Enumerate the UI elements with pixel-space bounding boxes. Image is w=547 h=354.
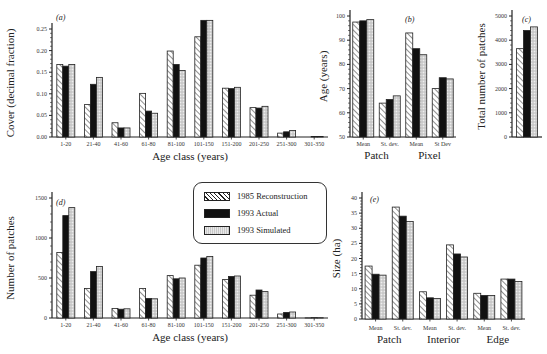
y-axis-label: Size (ha) bbox=[330, 238, 343, 278]
y-tick-label: 4000 bbox=[495, 37, 507, 43]
y-tick-label: 40 bbox=[351, 195, 357, 201]
bar bbox=[461, 257, 468, 319]
bar bbox=[399, 216, 406, 319]
panel-label: (e) bbox=[370, 195, 379, 204]
bar bbox=[262, 106, 268, 137]
x-tick-label: Mean bbox=[423, 325, 437, 331]
group-label: Edge bbox=[487, 333, 510, 345]
x-tick-label: 151-200 bbox=[221, 322, 241, 328]
solid-swatch-icon bbox=[204, 209, 230, 218]
x-tick-label: 151-200 bbox=[221, 141, 241, 147]
bar bbox=[146, 298, 152, 318]
bar bbox=[179, 278, 185, 318]
y-tick-label: 1000 bbox=[35, 235, 47, 241]
bar bbox=[406, 222, 413, 319]
bar bbox=[284, 312, 290, 318]
bar bbox=[432, 89, 439, 137]
bar bbox=[419, 292, 426, 319]
panel-label: (d) bbox=[56, 198, 66, 207]
stipple-swatch-icon bbox=[204, 226, 230, 235]
bar bbox=[406, 33, 413, 137]
y-axis-label: Cover (decimal fraction) bbox=[4, 28, 17, 137]
y-tick-label: 0.10 bbox=[37, 91, 48, 97]
y-tick-label: 500 bbox=[38, 275, 47, 281]
bar bbox=[446, 79, 453, 137]
bar bbox=[146, 111, 152, 137]
bar bbox=[222, 280, 228, 318]
bar bbox=[392, 207, 399, 319]
x-tick-label: St Dev bbox=[435, 141, 452, 147]
bar bbox=[439, 78, 446, 137]
bar bbox=[112, 308, 118, 318]
x-tick-label: 1-20 bbox=[60, 322, 71, 328]
x-tick-label: St. dev. bbox=[448, 325, 466, 331]
y-tick-label: 60 bbox=[339, 110, 345, 116]
legend-item-1993-simulated: 1993 Simulated bbox=[204, 225, 291, 235]
x-tick-label: 21-40 bbox=[86, 322, 100, 328]
bar bbox=[426, 298, 433, 319]
bar bbox=[173, 279, 179, 318]
y-axis-label: Number of patches bbox=[4, 216, 16, 300]
x-tick-label: 1-20 bbox=[60, 141, 71, 147]
bar bbox=[508, 279, 515, 319]
y-tick-label: 90 bbox=[339, 37, 345, 43]
bar bbox=[517, 49, 524, 137]
legend-label: 1993 Actual bbox=[237, 208, 278, 218]
bar bbox=[372, 274, 379, 319]
x-tick-label: 251-300 bbox=[277, 141, 297, 147]
y-tick-label: 80 bbox=[339, 61, 345, 67]
legend: 1985 Reconstruction 1993 Actual 1993 Sim… bbox=[193, 182, 327, 244]
bar bbox=[90, 272, 96, 318]
x-tick-label: 101-150 bbox=[194, 141, 214, 147]
y-tick-label: 70 bbox=[339, 86, 345, 92]
y-tick-label: 20 bbox=[351, 256, 357, 262]
bar bbox=[250, 295, 256, 318]
legend-item-1993-actual: 1993 Actual bbox=[204, 208, 278, 218]
bar bbox=[124, 309, 130, 318]
bar bbox=[262, 292, 268, 318]
bar bbox=[69, 208, 75, 318]
bar bbox=[256, 108, 262, 137]
bar bbox=[386, 99, 393, 137]
x-tick-label: 61-80 bbox=[142, 141, 156, 147]
bar bbox=[90, 84, 96, 137]
bar bbox=[96, 266, 102, 318]
bar bbox=[207, 20, 213, 137]
bar bbox=[140, 288, 146, 318]
bar bbox=[84, 105, 90, 137]
bar bbox=[256, 290, 262, 318]
bar bbox=[515, 281, 522, 319]
x-tick-label: 251-300 bbox=[277, 322, 297, 328]
y-tick-label: 5000 bbox=[495, 13, 507, 19]
x-tick-label: 301-350 bbox=[304, 141, 324, 147]
x-tick-label: 61-80 bbox=[142, 322, 156, 328]
y-tick-label: 3000 bbox=[495, 61, 507, 67]
legend-label: 1993 Simulated bbox=[237, 225, 291, 235]
x-tick-label: 201-250 bbox=[249, 322, 269, 328]
bar bbox=[393, 96, 400, 137]
bar bbox=[179, 70, 185, 137]
bar bbox=[222, 88, 228, 137]
x-tick-label: 21-40 bbox=[86, 141, 100, 147]
y-tick-label: 0 bbox=[354, 316, 357, 322]
panel-label: (a) bbox=[56, 13, 66, 22]
y-tick-label: 100 bbox=[336, 13, 345, 19]
bar bbox=[152, 113, 158, 137]
y-tick-label: 0.00 bbox=[37, 134, 48, 140]
bar bbox=[228, 89, 234, 137]
bar bbox=[365, 266, 372, 319]
bar bbox=[379, 275, 386, 319]
x-tick-label: St. dev. bbox=[503, 325, 521, 331]
y-tick-label: 0.20 bbox=[37, 48, 48, 54]
x-tick-label: 301-350 bbox=[304, 322, 324, 328]
bar bbox=[63, 66, 69, 137]
x-axis-label: Age class (years) bbox=[152, 150, 228, 163]
y-tick-label: 0.15 bbox=[37, 69, 48, 75]
bar bbox=[167, 276, 173, 318]
bar bbox=[353, 22, 360, 137]
bar bbox=[124, 128, 130, 137]
bar bbox=[234, 87, 240, 137]
bar bbox=[290, 312, 296, 318]
x-tick-label: Mean bbox=[369, 325, 383, 331]
legend-item-1985-reconstruction: 1985 Reconstruction bbox=[204, 191, 308, 201]
